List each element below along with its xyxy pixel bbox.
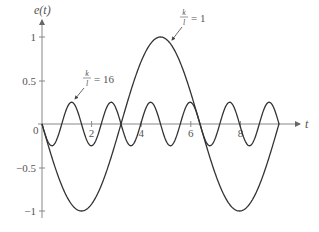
svg-text:l: l xyxy=(183,18,186,27)
svg-text:k: k xyxy=(85,69,89,78)
chart: 1 0.5 −0.5 −1 0 2 4 6 8 e(t) t k l = 16 … xyxy=(0,0,319,232)
svg-text:k: k xyxy=(182,8,186,17)
svg-text:l: l xyxy=(86,79,89,88)
x-axis-label: t xyxy=(305,117,309,131)
y-tick-neg0.5: −0.5 xyxy=(16,162,36,174)
y-axis-label: e(t) xyxy=(34,3,51,17)
svg-text:= 1: = 1 xyxy=(191,12,205,24)
x-tick-6: 6 xyxy=(188,127,194,139)
svg-text:= 16: = 16 xyxy=(94,73,114,85)
y-tick-1: 1 xyxy=(31,31,37,43)
annotation-k-over-l-1: k l = 1 xyxy=(172,8,205,40)
x-tick-0: 0 xyxy=(33,124,39,136)
y-tick-0.5: 0.5 xyxy=(22,75,36,87)
y-tick-neg1: −1 xyxy=(24,205,36,217)
x-tick-2: 2 xyxy=(89,127,95,139)
annotation-k-over-l-16: k l = 16 xyxy=(75,69,114,99)
